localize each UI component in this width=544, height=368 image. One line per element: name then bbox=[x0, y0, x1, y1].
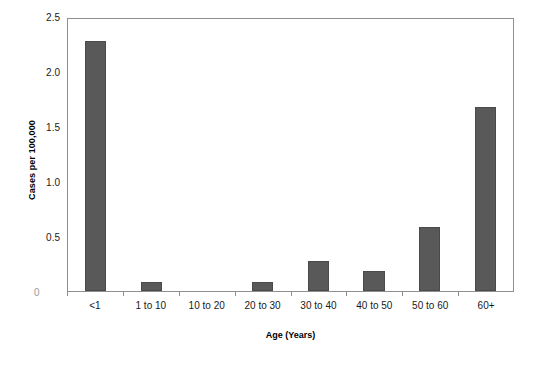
y-tick-label-2-5: 2.5 bbox=[34, 13, 60, 23]
bar-slot-10-to-20 bbox=[179, 19, 235, 291]
x-tick-label-30-to-40: 30 to 40 bbox=[291, 300, 347, 311]
bar-slot-lt1 bbox=[68, 19, 124, 291]
y-tick-label-2-0: 2.0 bbox=[34, 68, 60, 78]
x-tick-mark bbox=[123, 292, 124, 296]
bar-slot-20-to-30 bbox=[235, 19, 291, 291]
x-tick-label-50-to-60: 50 to 60 bbox=[402, 300, 458, 311]
x-axis-title: Age (Years) bbox=[67, 330, 514, 340]
y-tick-label-0-5: 0.5 bbox=[34, 233, 60, 243]
x-tick-label-10-to-20: 10 to 20 bbox=[179, 300, 235, 311]
x-tick-cell bbox=[458, 292, 514, 297]
bar-lt1[interactable] bbox=[85, 41, 106, 291]
y-axis-tick-labels: 2.5 2.0 1.5 1.0 0.5 0 bbox=[30, 0, 60, 368]
x-tick-mark bbox=[179, 292, 180, 296]
x-tick-label-60-plus: 60+ bbox=[458, 300, 514, 311]
bar-50-to-60[interactable] bbox=[419, 227, 440, 291]
x-tick-mark bbox=[458, 292, 459, 296]
x-tick-cell bbox=[402, 292, 458, 297]
x-tick-mark bbox=[235, 292, 236, 296]
plot-area bbox=[67, 18, 514, 292]
bar-slot-50-to-60 bbox=[402, 19, 458, 291]
y-tick-label-1-0: 1.0 bbox=[34, 178, 60, 188]
x-tick-cell bbox=[123, 292, 179, 297]
bar-chart-figure: Cases per 100,000 2.5 2.0 1.5 1.0 0.5 0 bbox=[0, 0, 544, 368]
x-tick-cell bbox=[291, 292, 347, 297]
x-tick-label-40-to-50: 40 to 50 bbox=[346, 300, 402, 311]
bar-1-to-10[interactable] bbox=[141, 282, 162, 291]
x-tick-cell bbox=[235, 292, 291, 297]
bar-slot-1-to-10 bbox=[124, 19, 180, 291]
x-tick-cell bbox=[346, 292, 402, 297]
x-tick-cell bbox=[179, 292, 235, 297]
y-tick-label-0: 0 bbox=[34, 288, 43, 298]
x-tick-mark bbox=[346, 292, 347, 296]
bar-40-to-50[interactable] bbox=[363, 271, 384, 291]
bar-slot-30-to-40 bbox=[291, 19, 347, 291]
x-tick-mark bbox=[402, 292, 403, 296]
x-tick-mark bbox=[67, 292, 68, 296]
bar-60-plus[interactable] bbox=[475, 107, 496, 291]
bar-30-to-40[interactable] bbox=[308, 261, 329, 291]
x-tick-mark bbox=[291, 292, 292, 296]
bar-slot-40-to-50 bbox=[346, 19, 402, 291]
bar-slot-60-plus bbox=[457, 19, 513, 291]
bar-20-to-30[interactable] bbox=[252, 282, 273, 291]
x-tick-label-1-to-10: 1 to 10 bbox=[123, 300, 179, 311]
x-tick-label-20-to-30: 20 to 30 bbox=[235, 300, 291, 311]
x-axis-ticks bbox=[67, 292, 514, 297]
x-tick-cell bbox=[67, 292, 123, 297]
x-axis-tick-labels: <1 1 to 10 10 to 20 20 to 30 30 to 40 40… bbox=[67, 300, 514, 311]
y-tick-label-1-5: 1.5 bbox=[34, 123, 60, 133]
x-tick-label-lt1: <1 bbox=[67, 300, 123, 311]
bars-layer bbox=[68, 19, 513, 291]
